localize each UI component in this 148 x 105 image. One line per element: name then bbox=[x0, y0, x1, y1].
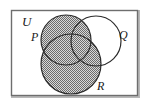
set-r-label: R bbox=[96, 79, 105, 93]
set-p-label: P bbox=[30, 30, 39, 44]
venn-diagram-figure: U P Q R bbox=[0, 0, 148, 105]
set-q-label: Q bbox=[119, 28, 128, 42]
venn-diagram-canvas: U P Q R bbox=[0, 0, 148, 105]
universe-label: U bbox=[22, 14, 33, 29]
